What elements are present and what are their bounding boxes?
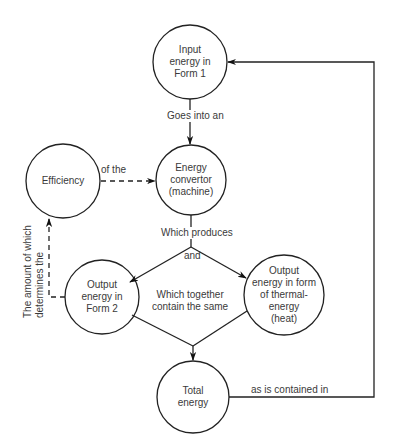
edge-label-of-the: of the — [101, 164, 126, 176]
node-total-label: Total energy — [178, 385, 209, 409]
edge-output2-to-efficiency — [49, 219, 65, 297]
edge-label-as-contained: as is contained in — [251, 384, 328, 396]
edge-total-to-input — [228, 62, 374, 397]
edge-label-which-produces: Which produces — [160, 227, 234, 239]
energy-flow-diagram: Input energy in Form 1 Energy convertor … — [0, 0, 393, 446]
edge-thermal-to-bottom — [193, 311, 247, 346]
edge-label-which-together: Which together contain the same — [152, 289, 228, 313]
edge-label-goes-into: Goes into an — [166, 110, 225, 122]
edge-output2-to-bottom — [132, 315, 193, 346]
node-convertor-label: Energy convertor (machine) — [169, 162, 213, 198]
edge-label-and: and — [184, 250, 201, 262]
node-efficiency-label: Efficiency — [42, 175, 85, 187]
node-thermal-label: Output energy in form of thermal- energy… — [252, 265, 316, 325]
node-input-label: Input energy in Form 1 — [169, 44, 210, 80]
edge-to-output2 — [130, 247, 191, 282]
edge-label-amount-determines: The amount of which determines the — [22, 225, 46, 318]
node-output2-label: Output energy in Form 2 — [81, 279, 122, 315]
